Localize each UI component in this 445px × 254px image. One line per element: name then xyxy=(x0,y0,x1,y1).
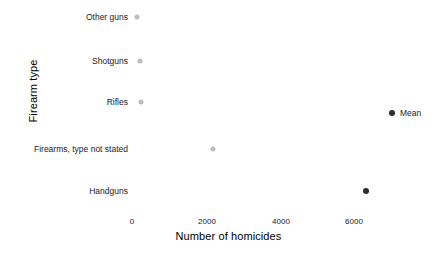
legend-label-mean: Mean xyxy=(400,108,421,118)
data-point-firearms-type-not-stated xyxy=(211,147,216,152)
chart-canvas: Firearm type Other guns Shotguns Rifles … xyxy=(0,0,445,254)
data-point-shotguns xyxy=(138,59,143,64)
y-axis-title-text: Firearm type xyxy=(27,60,39,123)
x-tick-label-2000: 2000 xyxy=(198,216,216,227)
x-axis-title: Number of homicides xyxy=(0,230,445,242)
y-tick-label-other-guns: Other guns xyxy=(86,11,128,23)
x-tick-label-4000: 4000 xyxy=(272,216,290,227)
legend-marker-mean-icon xyxy=(389,110,395,116)
data-point-rifles xyxy=(139,100,144,105)
plot-area xyxy=(0,0,445,254)
x-tick-label-6000: 6000 xyxy=(345,216,363,227)
data-point-handguns xyxy=(363,188,369,194)
y-tick-label-handguns: Handguns xyxy=(89,185,128,197)
y-tick-label-shotguns: Shotguns xyxy=(92,55,128,67)
data-point-other-guns xyxy=(135,15,140,20)
x-axis-title-text: Number of homicides xyxy=(176,230,282,242)
y-tick-label-rifles: Rifles xyxy=(107,96,128,108)
y-axis-title: Firearm type xyxy=(22,0,44,214)
y-tick-label-firearms-not-stated: Firearms, type not stated xyxy=(34,143,128,155)
x-tick-label-0: 0 xyxy=(130,216,134,227)
legend: Mean xyxy=(389,108,421,118)
